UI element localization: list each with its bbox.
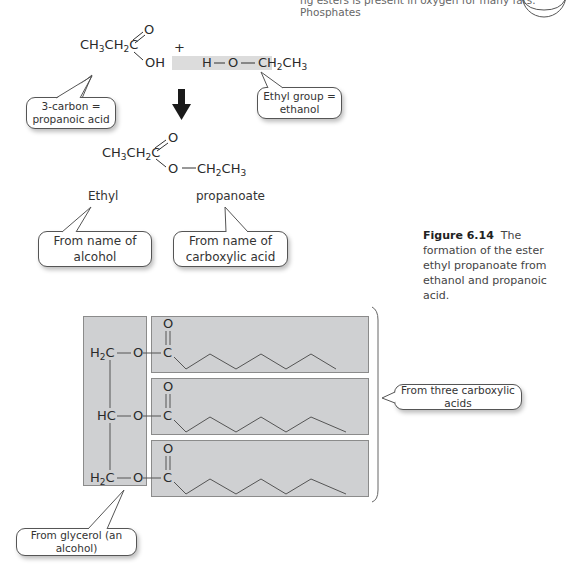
bubble-glycerol-pointer: [0, 0, 568, 584]
